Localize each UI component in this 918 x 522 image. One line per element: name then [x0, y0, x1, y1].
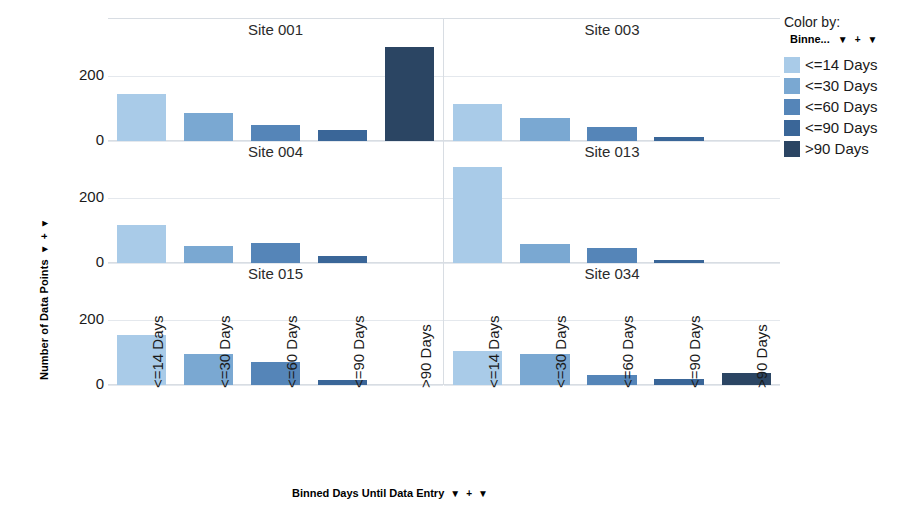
- legend-item-label: <=14 Days: [805, 56, 878, 73]
- y-axis-menu-icon[interactable]: ▼: [39, 218, 50, 228]
- bar-series: [444, 162, 780, 263]
- bar[interactable]: [251, 125, 301, 141]
- x-axis-menu-icon[interactable]: ▼: [478, 488, 488, 499]
- bar-slot: [646, 40, 713, 141]
- bar[interactable]: [385, 47, 435, 141]
- legend-item-label: <=60 Days: [805, 98, 878, 115]
- bar-slot: [578, 162, 645, 263]
- bar-slot: [713, 40, 780, 141]
- bar-slot: [175, 162, 242, 263]
- y-tick-label: 200: [79, 67, 104, 82]
- bar[interactable]: [587, 248, 637, 263]
- bar-series: [108, 162, 443, 263]
- y-tick-label: 0: [96, 376, 104, 391]
- legend-swatch: [784, 120, 800, 136]
- panel-site-013: Site 013: [444, 141, 780, 263]
- bar-slot: [376, 162, 443, 263]
- legend-items: <=14 Days<=30 Days<=60 Days<=90 Days>90 …: [784, 54, 912, 159]
- y-tick-label-group: 2000: [52, 262, 104, 384]
- legend-title: Color by:: [784, 14, 912, 31]
- bar-slot: [511, 162, 578, 263]
- y-tick-label-group: 2000: [52, 18, 104, 140]
- bar-slot: [713, 162, 780, 263]
- bar[interactable]: [184, 113, 234, 141]
- legend-item[interactable]: <=90 Days: [784, 117, 912, 138]
- legend-item[interactable]: <=30 Days: [784, 75, 912, 96]
- panel-row: Site 001Site 003: [108, 19, 780, 141]
- legend-item-label: >90 Days: [805, 140, 869, 157]
- bar-slot: [309, 162, 376, 263]
- y-axis-title-label: Number of Data Points: [38, 259, 50, 380]
- legend-menu-icon[interactable]: ▼: [867, 34, 877, 45]
- bar[interactable]: [520, 118, 570, 141]
- bar-slot: [309, 40, 376, 141]
- x-tick-slot: <=60 Days: [578, 386, 645, 482]
- y-axis-dropdown-icon[interactable]: ▼: [39, 244, 50, 254]
- y-axis-title[interactable]: Number of Data Points▼+▼: [38, 218, 50, 380]
- x-tick-slot: <=90 Days: [310, 386, 377, 482]
- bar[interactable]: [520, 244, 570, 263]
- x-tick-label: <=14 Days: [485, 315, 502, 388]
- x-tick-label: >90 Days: [417, 324, 434, 388]
- x-tick-slot: >90 Days: [377, 386, 444, 482]
- x-axis-title-label: Binned Days Until Data Entry: [292, 487, 444, 499]
- bar[interactable]: [453, 104, 503, 141]
- y-tick-label: 200: [79, 189, 104, 204]
- x-tick-labels-right-column: <=14 Days<=30 Days<=60 Days<=90 Days>90 …: [444, 386, 780, 482]
- bar[interactable]: [453, 167, 503, 263]
- x-tick-label: <=30 Days: [216, 315, 233, 388]
- bar-slot: [376, 40, 443, 141]
- x-tick-slot: <=60 Days: [242, 386, 309, 482]
- x-tick-labels-left-column: <=14 Days<=30 Days<=60 Days<=90 Days>90 …: [108, 386, 444, 482]
- legend-item-label: <=90 Days: [805, 119, 878, 136]
- y-axis-add-icon[interactable]: +: [39, 233, 50, 239]
- x-tick-label: <=90 Days: [350, 315, 367, 388]
- y-axis-title-container: Number of Data Points▼+▼: [18, 140, 40, 380]
- legend: Color by: Binne... ▼ + ▼ <=14 Days<=30 D…: [784, 14, 912, 159]
- panel-site-001: Site 001: [108, 19, 444, 141]
- x-tick-slot: <=30 Days: [175, 386, 242, 482]
- legend-item[interactable]: <=14 Days: [784, 54, 912, 75]
- x-tick-label: <=14 Days: [149, 315, 166, 388]
- legend-field-selector[interactable]: Binne... ▼ + ▼: [790, 33, 912, 45]
- bar-slot: [511, 40, 578, 141]
- x-tick-label: <=60 Days: [619, 315, 636, 388]
- plot-area: [444, 40, 780, 141]
- y-tick-label-group: 2000: [52, 140, 104, 262]
- bar-slot: [108, 162, 175, 263]
- bar[interactable]: [587, 127, 637, 141]
- x-tick-label: >90 Days: [753, 324, 770, 388]
- panel-row: Site 004Site 013: [108, 141, 780, 263]
- legend-item[interactable]: >90 Days: [784, 138, 912, 159]
- legend-item[interactable]: <=60 Days: [784, 96, 912, 117]
- bar[interactable]: [117, 94, 167, 141]
- bar[interactable]: [251, 243, 301, 263]
- x-axis-add-icon[interactable]: +: [466, 488, 472, 499]
- bar-slot: [175, 40, 242, 141]
- bar-series: [108, 40, 443, 141]
- x-tick-slot: <=90 Days: [646, 386, 713, 482]
- x-axis-title[interactable]: Binned Days Until Data Entry▼+▼: [0, 487, 780, 499]
- bar-slot: [444, 162, 511, 263]
- panel-title: Site 004: [108, 142, 443, 161]
- bar[interactable]: [184, 246, 234, 263]
- x-tick-label: <=90 Days: [686, 315, 703, 388]
- bar-slot: [646, 162, 713, 263]
- bar-series: [444, 40, 780, 141]
- x-tick-label: <=60 Days: [283, 315, 300, 388]
- plot-area: [108, 40, 443, 141]
- x-axis-dropdown-icon[interactable]: ▼: [450, 488, 460, 499]
- legend-dropdown-icon[interactable]: ▼: [838, 34, 848, 45]
- bar[interactable]: [318, 130, 368, 141]
- bar-slot: [242, 162, 309, 263]
- legend-item-label: <=30 Days: [805, 77, 878, 94]
- panel-title: Site 015: [108, 264, 443, 283]
- plot-area: [108, 162, 443, 263]
- bar[interactable]: [117, 225, 167, 263]
- panel-row: Site 015Site 034: [108, 263, 780, 385]
- panel-grid: Site 001Site 003Site 004Site 013Site 015…: [108, 18, 780, 384]
- bar-slot: [242, 40, 309, 141]
- plot-area: [444, 162, 780, 263]
- legend-swatch: [784, 141, 800, 157]
- legend-add-icon[interactable]: +: [855, 34, 861, 45]
